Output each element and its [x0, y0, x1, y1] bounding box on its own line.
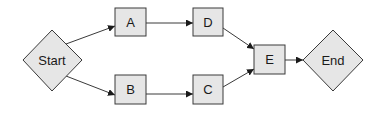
node-a: A	[115, 8, 146, 36]
node-e-label: E	[265, 52, 274, 67]
flowchart-svg: Start A B D C E End	[0, 0, 383, 114]
edge-start-to-a	[66, 26, 115, 44]
edge-d-to-e	[223, 28, 254, 49]
node-end-label: End	[321, 53, 344, 68]
node-c: C	[193, 75, 223, 104]
node-start: Start	[23, 30, 82, 91]
node-a-label: A	[126, 15, 135, 30]
node-b: B	[115, 75, 146, 104]
node-b-label: B	[126, 82, 135, 97]
node-start-label: Start	[38, 53, 66, 68]
flowchart-canvas: Start A B D C E End	[0, 0, 383, 114]
node-d-label: D	[203, 15, 212, 30]
node-end: End	[303, 30, 363, 91]
edge-start-to-b	[66, 76, 115, 95]
node-e: E	[254, 45, 285, 74]
node-d: D	[193, 8, 223, 36]
node-c-label: C	[203, 82, 212, 97]
edge-c-to-e	[223, 69, 254, 87]
